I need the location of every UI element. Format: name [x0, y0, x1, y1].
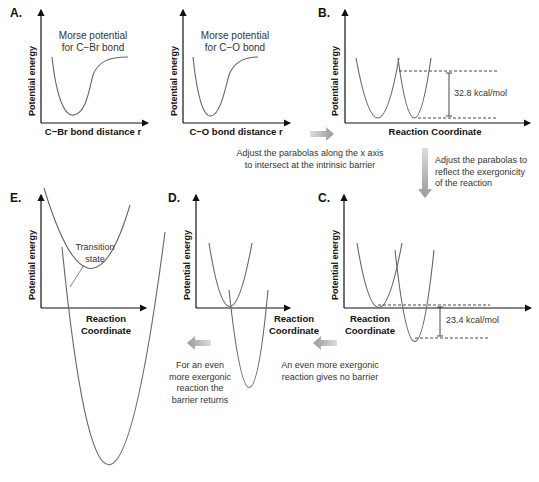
note-a-to-b: Adjust the parabolas along the x axis to… [230, 148, 390, 171]
panel-label-d: D. [168, 191, 180, 205]
diagram-canvas [0, 0, 539, 482]
b-y-label: Potential energy [330, 46, 340, 116]
transition-state-label: Transition state [70, 242, 120, 265]
arrow-d-to-e [187, 336, 211, 350]
panel-label-e: E. [10, 191, 21, 205]
a-left-y-label: Potential energy [27, 46, 37, 116]
note-d-to-e: For an even more exergonic reaction the … [160, 360, 240, 406]
c-gap-value: 23.4 kcal/mol [446, 315, 499, 325]
a-right-y-label: Potential energy [169, 46, 179, 116]
note-c-to-d: An even more exergonic reaction gives no… [270, 360, 390, 383]
morse-cbr-label: Morse potential for C−Br bond [48, 30, 138, 53]
panel-label-a: A. [10, 6, 22, 20]
morse-cbr-curve [52, 57, 128, 115]
morse-co-label: Morse potential for C−O bond [190, 30, 280, 53]
arrow-a-to-b [310, 127, 334, 141]
c-x-label: Reaction Coordinate [340, 313, 400, 337]
note-b-to-c: Adjust the parabolas to reflect the exer… [435, 155, 539, 190]
d-y-label: Potential energy [182, 230, 192, 300]
e-y-label: Potential energy [27, 230, 37, 300]
b-barrier-value: 32.8 kcal/mol [454, 88, 507, 98]
e-x-label: Reaction Coordinate [76, 313, 136, 337]
arrow-c-to-d [313, 336, 337, 350]
d-x-label: Reaction Coordinate [264, 313, 324, 337]
panel-label-b: B. [318, 6, 330, 20]
a-left-x-label: C−Br bond distance r [38, 126, 148, 138]
b-x-label: Reaction Coordinate [380, 126, 490, 138]
a-right-x-label: C−O bond distance r [181, 126, 291, 138]
c-y-label: Potential energy [330, 230, 340, 300]
arrow-b-to-c [418, 148, 432, 198]
panel-label-c: C. [318, 191, 330, 205]
morse-co-curve [193, 57, 258, 116]
